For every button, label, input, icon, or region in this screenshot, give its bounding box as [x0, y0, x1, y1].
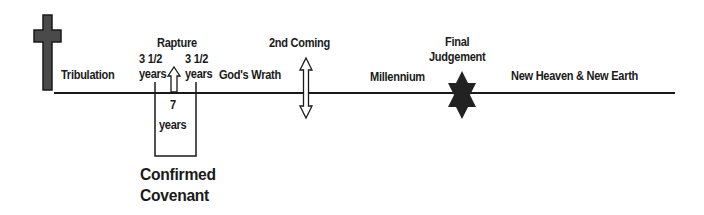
- label-millennium: Millennium: [370, 70, 425, 84]
- label-half-right-num: 3 1/2: [185, 52, 208, 66]
- six-pointed-star-icon: [448, 71, 476, 119]
- label-final-line1: Final: [445, 35, 469, 49]
- timeline-graphics: [0, 0, 704, 215]
- double-arrow-icon: [300, 58, 312, 118]
- label-half-left-num: 3 1/2: [139, 52, 162, 66]
- label-covenant-line2: Covenant: [140, 186, 209, 206]
- cross-icon: [34, 15, 61, 90]
- label-tribulation: Tribulation: [61, 68, 114, 82]
- label-seven-num: 7: [170, 98, 176, 112]
- up-arrow-icon: [168, 67, 180, 92]
- label-seven-unit: years: [159, 118, 186, 132]
- label-covenant-line1: Confirmed: [140, 165, 216, 185]
- label-half-left-unit: years: [139, 67, 166, 81]
- label-rapture: Rapture: [157, 36, 197, 50]
- label-half-right-unit: years: [185, 67, 212, 81]
- label-second-coming: 2nd Coming: [269, 36, 330, 50]
- label-final-line2: Judgement: [429, 50, 485, 64]
- label-new-heaven: New Heaven & New Earth: [511, 69, 638, 83]
- label-gods-wrath: God's Wrath: [219, 68, 281, 82]
